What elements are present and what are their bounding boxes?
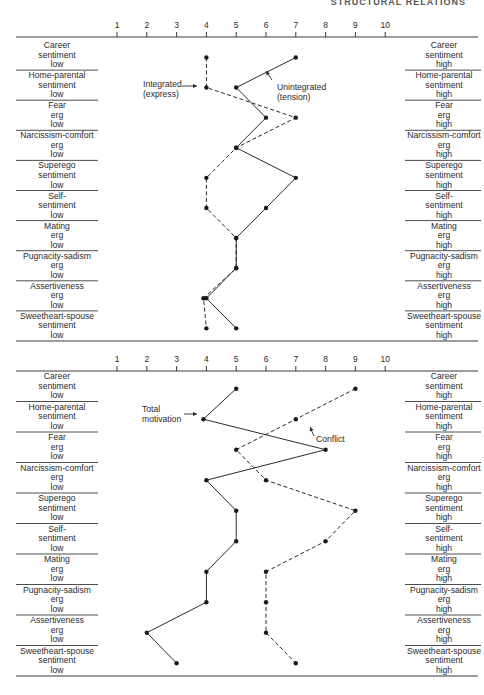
data-point bbox=[234, 266, 238, 270]
axis-tick-label: 1 bbox=[107, 20, 127, 30]
row-label-left: Matingerglow bbox=[15, 222, 99, 251]
row-label-right: Pugnacity-sadismerghigh bbox=[404, 252, 484, 281]
data-point bbox=[264, 630, 268, 634]
row-label-left: Narcissism-comforterglow bbox=[15, 131, 99, 160]
row-label-left: Careersentimentlow bbox=[15, 41, 99, 70]
row-label-left: Pugnacity-sadismerglow bbox=[15, 586, 99, 615]
row-label-right: Matingerghigh bbox=[404, 555, 484, 584]
row-label-left: Superegosentimentlow bbox=[15, 161, 99, 190]
row-label-right: Home-parentalsentimenthigh bbox=[404, 71, 484, 100]
row-label-right: Superegosentimenthigh bbox=[404, 494, 484, 523]
axis-tick-label: 5 bbox=[226, 354, 246, 364]
row-label-right: Narcissism-comforterghigh bbox=[404, 131, 484, 160]
axis-tick-label: 9 bbox=[345, 20, 365, 30]
axis-tick-label: 2 bbox=[137, 20, 157, 30]
row-label-left: Pugnacity-sadismerglow bbox=[15, 252, 99, 281]
chart-total-motivation-vs-conflict: 12345678910 CareersentimentlowCareersent… bbox=[0, 334, 481, 684]
data-point bbox=[234, 447, 238, 451]
data-point bbox=[264, 478, 268, 482]
row-label-left: Narcissism-comforterglow bbox=[15, 464, 99, 493]
axis-tick-label: 6 bbox=[256, 20, 276, 30]
annotation-unintegrated: Unintegrated (tension) bbox=[277, 82, 326, 102]
data-point bbox=[204, 478, 208, 482]
data-point bbox=[264, 206, 268, 210]
row-label-left: Self-sentimentlow bbox=[15, 192, 99, 221]
data-point bbox=[353, 508, 357, 512]
data-point bbox=[234, 386, 238, 390]
row-label-left: Home-parentalsentimentlow bbox=[15, 403, 99, 432]
row-label-right: Sweetheart-spousesentimenthigh bbox=[404, 647, 484, 676]
data-point bbox=[294, 176, 298, 180]
chart-integrated-vs-unintegrated: 12345678910 CareersentimentlowCareersent… bbox=[0, 0, 481, 345]
data-point bbox=[234, 85, 238, 89]
row-label-right: Assertivenesserghigh bbox=[404, 282, 484, 311]
axis-tick-label: 3 bbox=[167, 20, 187, 30]
data-point bbox=[204, 55, 208, 59]
data-point bbox=[323, 447, 327, 451]
row-label-left: Self-sentimentlow bbox=[15, 525, 99, 554]
row-label-left: Assertivenesserglow bbox=[15, 282, 99, 311]
annotation-total-motivation: Total motivation bbox=[142, 404, 181, 424]
axis-tick-label: 10 bbox=[375, 20, 395, 30]
row-label-right: Careersentimenthigh bbox=[404, 372, 484, 401]
row-label-right: Pugnacity-sadismerghigh bbox=[404, 586, 484, 615]
row-label-right: Superegosentimenthigh bbox=[404, 161, 484, 190]
data-point bbox=[294, 661, 298, 665]
series-line bbox=[236, 389, 355, 664]
axis-tick-label: 5 bbox=[226, 20, 246, 30]
data-point bbox=[294, 55, 298, 59]
data-point bbox=[294, 115, 298, 119]
data-point bbox=[204, 206, 208, 210]
data-point bbox=[204, 85, 208, 89]
data-point bbox=[323, 539, 327, 543]
data-point bbox=[204, 600, 208, 604]
data-point bbox=[204, 176, 208, 180]
row-label-left: Fearerglow bbox=[15, 433, 99, 462]
row-label-right: Fearerghigh bbox=[404, 433, 484, 462]
axis-tick-label: 8 bbox=[316, 20, 336, 30]
arrowhead-icon bbox=[193, 84, 197, 88]
row-label-right: Assertivenesserghigh bbox=[404, 616, 484, 645]
axis-tick-label: 1 bbox=[107, 354, 127, 364]
row-label-right: Fearerghigh bbox=[404, 101, 484, 130]
axis-tick-label: 9 bbox=[345, 354, 365, 364]
data-point bbox=[234, 508, 238, 512]
data-point bbox=[204, 296, 208, 300]
data-point bbox=[264, 569, 268, 573]
data-point bbox=[234, 326, 238, 330]
axis-tick-label: 4 bbox=[196, 20, 216, 30]
axis-tick-label: 3 bbox=[167, 354, 187, 364]
axis-tick-label: 10 bbox=[375, 354, 395, 364]
row-label-left: Matingerglow bbox=[15, 555, 99, 584]
row-label-right: Careersentimenthigh bbox=[404, 41, 484, 70]
data-point bbox=[264, 115, 268, 119]
data-point bbox=[353, 386, 357, 390]
annotation-conflict: Conflict bbox=[316, 434, 345, 444]
row-label-left: Home-parentalsentimentlow bbox=[15, 71, 99, 100]
data-point bbox=[294, 417, 298, 421]
data-point bbox=[204, 326, 208, 330]
axis-tick-label: 6 bbox=[256, 354, 276, 364]
row-label-right: Home-parentalsentimenthigh bbox=[404, 403, 484, 432]
axis-tick-label: 2 bbox=[137, 354, 157, 364]
arrowhead-icon bbox=[193, 412, 197, 416]
axis-tick-label: 8 bbox=[316, 354, 336, 364]
row-label-left: Superegosentimentlow bbox=[15, 494, 99, 523]
row-label-left: Sweetheart-spousesentimentlow bbox=[15, 647, 99, 676]
data-point bbox=[234, 539, 238, 543]
row-label-right: Narcissism-comforterghigh bbox=[404, 464, 484, 493]
data-point bbox=[264, 600, 268, 604]
annotation-integrated: Integrated (express) bbox=[143, 79, 182, 99]
data-point bbox=[204, 569, 208, 573]
row-label-right: Matingerghigh bbox=[404, 222, 484, 251]
row-label-left: Assertivenesserglow bbox=[15, 616, 99, 645]
axis-tick-label: 4 bbox=[196, 354, 216, 364]
data-point bbox=[201, 417, 205, 421]
row-label-right: Self-sentimenthigh bbox=[404, 192, 484, 221]
axis-tick-label: 7 bbox=[286, 354, 306, 364]
axis-tick-label: 7 bbox=[286, 20, 306, 30]
series-line bbox=[147, 389, 326, 664]
row-label-left: Careersentimentlow bbox=[15, 372, 99, 401]
row-label-right: Self-sentimenthigh bbox=[404, 525, 484, 554]
row-label-left: Fearerglow bbox=[15, 101, 99, 130]
